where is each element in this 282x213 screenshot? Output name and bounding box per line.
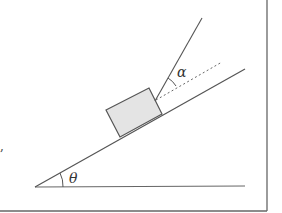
rope-line — [155, 18, 202, 101]
ground-line — [35, 186, 245, 187]
theta-label: θ — [69, 170, 78, 186]
theta-arc — [60, 173, 63, 187]
alpha-arc — [168, 78, 176, 86]
block — [106, 88, 162, 137]
alpha-label: α — [177, 64, 187, 80]
stray-mark: , — [0, 139, 4, 153]
incline-diagram: θ α , — [0, 0, 282, 213]
incline-line — [35, 69, 245, 187]
